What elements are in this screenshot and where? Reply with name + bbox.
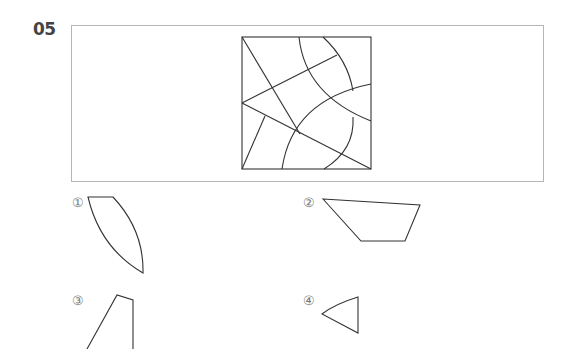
option-3-label: ③ xyxy=(72,293,84,308)
divided-square xyxy=(242,37,371,169)
line-bottomleft-up xyxy=(242,116,265,169)
option-2[interactable] xyxy=(323,199,420,241)
option-4[interactable] xyxy=(322,297,358,333)
option-2-shape xyxy=(323,199,420,241)
option-3[interactable] xyxy=(87,295,133,349)
option-4-shape xyxy=(322,297,358,333)
arc-lower-right xyxy=(324,117,353,169)
square-outline xyxy=(242,37,371,169)
option-1-label: ① xyxy=(72,195,84,210)
option-2-label: ② xyxy=(303,195,315,210)
option-3-shape xyxy=(87,295,133,349)
puzzle-figure xyxy=(0,0,570,349)
option-1[interactable] xyxy=(88,197,143,273)
option-4-label: ④ xyxy=(303,293,315,308)
option-1-shape xyxy=(88,197,143,273)
arc-top-outer xyxy=(323,37,353,91)
line-leftmid-to-upper-right xyxy=(242,55,337,103)
line-topleft-to-center xyxy=(242,37,300,134)
